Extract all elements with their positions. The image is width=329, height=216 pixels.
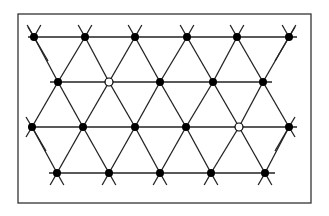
diagonal-line (213, 37, 237, 82)
diagonal-line (109, 127, 135, 173)
diagonal-line (57, 127, 83, 173)
filled-node (156, 169, 164, 177)
filled-node (28, 123, 36, 131)
diagonal-line (160, 127, 186, 173)
diagonal-line (160, 82, 186, 127)
diagonal-line (263, 82, 289, 127)
filled-node (81, 33, 89, 41)
open-node (235, 123, 243, 131)
filled-node (30, 33, 38, 41)
diagonal-line (187, 37, 213, 82)
lattice-diagram (0, 0, 329, 216)
diagonal-line (135, 127, 160, 173)
open-node (105, 78, 113, 86)
diagonal-line (186, 127, 211, 173)
filled-node (54, 78, 62, 86)
lattice-lines (26, 25, 297, 185)
filled-node (183, 33, 191, 41)
filled-node (207, 169, 215, 177)
diagonal-line (160, 37, 187, 82)
diagonal-line (211, 127, 239, 173)
filled-node (182, 123, 190, 131)
filled-node (259, 78, 267, 86)
filled-node (156, 78, 164, 86)
filled-node (233, 33, 241, 41)
diagonal-line (85, 37, 109, 82)
diagonal-stub (275, 127, 289, 151)
diagonal-line (213, 82, 239, 127)
filled-node (105, 169, 113, 177)
diagonal-line (58, 82, 83, 127)
filled-node (285, 33, 293, 41)
filled-node (209, 78, 217, 86)
diagonal-line (32, 82, 58, 127)
diagonal-stub (32, 127, 46, 151)
diagonal-line (83, 82, 109, 127)
diagonal-stub (275, 37, 289, 61)
diagonal-line (109, 82, 135, 127)
diagonal-line (237, 37, 263, 82)
filled-node (53, 169, 61, 177)
diagonal-line (58, 37, 85, 82)
filled-node (131, 123, 139, 131)
diagonal-line (186, 82, 213, 127)
triangular-lattice-svg (0, 0, 329, 216)
diagonal-line (135, 37, 160, 82)
filled-node (79, 123, 87, 131)
diagonal-line (83, 127, 109, 173)
diagonal-line (239, 127, 265, 173)
filled-node (285, 123, 293, 131)
filled-node (131, 33, 139, 41)
lattice-nodes (28, 33, 293, 177)
diagonal-line (135, 82, 160, 127)
diagonal-line (239, 82, 263, 127)
diagonal-line (109, 37, 135, 82)
filled-node (261, 169, 269, 177)
diagonal-stub (34, 37, 48, 61)
